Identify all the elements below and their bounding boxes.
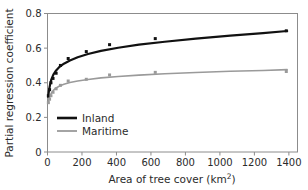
data-point-inland [55, 72, 58, 75]
data-point-maritime [285, 70, 288, 73]
data-point-inland [47, 94, 50, 97]
regression-coefficient-chart: 00.20.40.60.8 0200400600800100012001400 … [0, 0, 308, 190]
data-point-inland [52, 77, 55, 80]
chart-container: 00.20.40.60.8 0200400600800100012001400 … [0, 0, 308, 190]
y-tick-label: 0.4 [26, 77, 42, 88]
data-point-inland [108, 43, 111, 46]
data-point-maritime [52, 91, 55, 94]
x-tick-label: 1400 [276, 157, 301, 168]
x-tick-label: 600 [141, 157, 160, 168]
data-point-inland [67, 57, 70, 60]
x-tick-label: 800 [176, 157, 195, 168]
x-tick-label: 200 [72, 157, 91, 168]
x-tick-label: 1000 [207, 157, 232, 168]
chart-legend: InlandMaritime [57, 112, 128, 137]
data-point-inland [49, 81, 52, 84]
y-tick-label: 0.8 [26, 8, 42, 19]
x-tick-label: 1200 [242, 157, 267, 168]
y-axis-title: Partial regression coefficient [3, 8, 15, 157]
y-tick-label: 0.2 [26, 112, 42, 123]
data-point-inland [59, 64, 62, 67]
series-curves [48, 31, 287, 103]
series-curve-maritime [48, 70, 287, 103]
data-point-maritime [108, 73, 111, 76]
data-point-inland [285, 29, 288, 32]
x-axis-title: Area of tree cover (km2) [108, 172, 235, 186]
x-tick-label: 400 [107, 157, 126, 168]
data-point-maritime [48, 98, 51, 101]
x-tick-label: 0 [44, 157, 50, 168]
data-point-maritime [49, 94, 52, 97]
y-axis-ticks [44, 14, 48, 153]
data-point-maritime [47, 101, 50, 104]
y-axis-tick-labels: 00.20.40.60.8 [26, 8, 42, 158]
x-axis-tick-labels: 0200400600800100012001400 [44, 157, 301, 168]
data-point-maritime [55, 87, 58, 90]
x-axis-ticks [48, 152, 289, 156]
data-point-inland [85, 50, 88, 53]
data-point-maritime [85, 78, 88, 81]
legend-label-inland: Inland [82, 112, 114, 124]
data-point-maritime [154, 71, 157, 74]
data-point-inland [154, 37, 157, 40]
y-tick-label: 0 [35, 147, 41, 158]
data-point-maritime [59, 84, 62, 87]
series-curve-inland [48, 31, 287, 97]
y-tick-label: 0.6 [26, 43, 42, 54]
data-point-inland [48, 88, 51, 91]
legend-label-maritime: Maritime [82, 125, 128, 137]
data-point-maritime [67, 80, 70, 83]
